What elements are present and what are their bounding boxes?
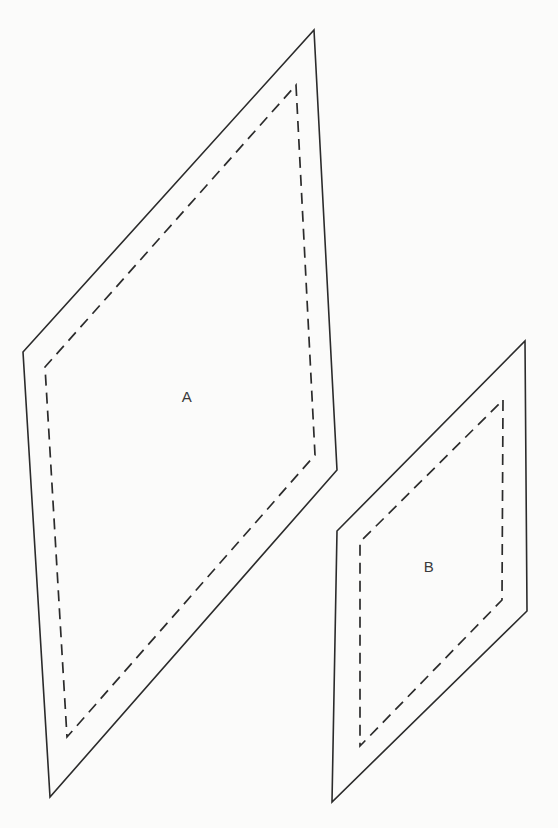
figure-background bbox=[0, 0, 558, 828]
shape-a-label: A bbox=[182, 388, 193, 405]
shape-b-label: B bbox=[424, 558, 435, 575]
two-panel-figure: A B bbox=[0, 0, 558, 828]
